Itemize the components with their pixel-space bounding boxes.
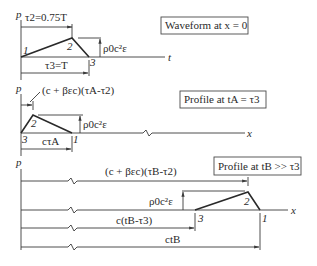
- x-axis-label: x: [290, 204, 296, 216]
- panel-title: Profile at tB >> τ3: [218, 160, 300, 172]
- axis-break-icon: [143, 130, 152, 136]
- amplitude-label: ρ0c²ε: [103, 42, 127, 54]
- shift-label: (c + βεc)(τA-τ2): [42, 84, 115, 97]
- p-axis-label: p: [15, 156, 22, 168]
- wave-propagation-diagram: p t 1 2 3 τ2=0.75T ρ0c²ε τ3=T Waveform a…: [0, 0, 317, 266]
- p-axis-label: p: [15, 82, 22, 94]
- axis-break-icon: [68, 207, 77, 213]
- panel-title: Waveform at x = 0: [165, 19, 248, 31]
- axis-break-icon: [68, 225, 77, 231]
- tau2-label: τ2=0.75T: [25, 11, 67, 23]
- tau3-label: τ3=T: [45, 59, 68, 71]
- amplitude-label: ρ0c²ε: [149, 195, 173, 207]
- panel-profile-b: p (c + βεc)(τB-τ2) x 3 2 1 ρ0c²ε c(tB-τ3…: [15, 156, 301, 250]
- profile-curve: [195, 192, 260, 210]
- x-axis-label: x: [246, 127, 252, 139]
- shift-label: (c + βεc)(τB-τ2): [105, 165, 177, 178]
- point-2-label: 2: [244, 195, 250, 207]
- point-3-label: 3: [89, 56, 96, 68]
- point-2-label: 2: [31, 117, 37, 129]
- t-axis-label: t: [168, 51, 172, 63]
- point-3-label: 3: [197, 212, 204, 224]
- panel-title: Profile at tA = τ3: [184, 93, 260, 105]
- axis-break-icon: [68, 244, 77, 250]
- ctA-label: cτA: [42, 135, 59, 147]
- point-1-label: 1: [73, 133, 79, 145]
- amplitude-label: ρ0c²ε: [83, 118, 107, 130]
- panel-waveform: p t 1 2 3 τ2=0.75T ρ0c²ε τ3=T Waveform a…: [15, 8, 248, 80]
- p-axis-label: p: [15, 8, 22, 20]
- axis-break-icon: [68, 178, 77, 184]
- panel-profile-a: p x 3 2 1 (c + βεc)(τA-τ2) ρ0c²ε cτA Pro…: [15, 82, 266, 156]
- ctB-tau3-label: c(tB-τ3): [116, 214, 153, 227]
- point-2-label: 2: [67, 40, 73, 52]
- ctB-label: ctB: [165, 233, 180, 245]
- profile-curve: [21, 115, 72, 133]
- leader-line: [30, 92, 40, 102]
- point-1-label: 1: [262, 212, 268, 224]
- waveform-curve: [21, 38, 89, 57]
- point-1-label: 1: [23, 44, 29, 56]
- point-3-label: 3: [21, 133, 28, 145]
